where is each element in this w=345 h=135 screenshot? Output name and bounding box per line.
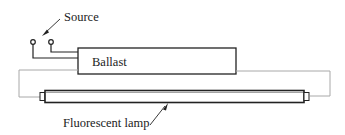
source-label: Source xyxy=(64,10,99,24)
fluorescent-lamp xyxy=(40,91,309,103)
source-arrow xyxy=(42,19,60,36)
source-wires xyxy=(33,44,78,58)
source-terminals xyxy=(31,40,54,45)
lamp-label: Fluorescent lamp xyxy=(63,116,149,130)
fluorescent-lamp-circuit-diagram: Source Ballast Fluorescent lamp xyxy=(0,0,345,135)
ballast-label: Ballast xyxy=(92,55,127,69)
wire-right xyxy=(51,44,78,52)
lamp-arrow xyxy=(150,103,168,125)
lamp-endcap-right xyxy=(304,93,309,101)
source-terminal-left xyxy=(31,40,36,45)
source-terminal-right xyxy=(49,40,54,45)
wire-left xyxy=(33,44,78,58)
